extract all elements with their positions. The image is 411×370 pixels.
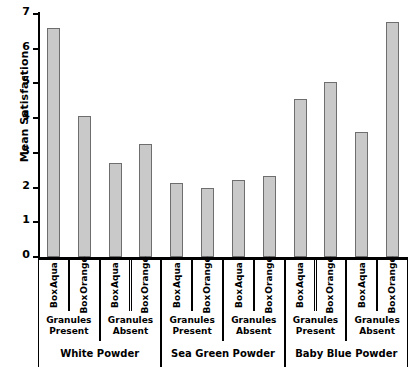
y-axis-tick: 4 — [33, 117, 38, 119]
box-label-word: Orange — [141, 257, 151, 294]
powder-label-cell: Sea Green Powder — [161, 341, 284, 367]
box-label-cell: OrangeBox — [131, 259, 162, 311]
box-label-cell: AquaBox — [38, 259, 69, 311]
box-label-word: Orange — [79, 257, 89, 294]
box-label-cell: OrangeBox — [254, 259, 285, 311]
granules-label-text: GranulesPresent — [293, 315, 338, 337]
box-label-text: AquaBox — [110, 262, 120, 308]
box-label-word: Aqua — [172, 262, 182, 288]
powder-label-text: Sea Green Powder — [171, 348, 275, 360]
y-axis-tick-label: 4 — [22, 110, 30, 122]
box-label-text: OrangeBox — [388, 257, 398, 314]
x-axis-label-table: AquaBoxOrangeBoxAquaBoxOrangeBoxAquaBoxO… — [38, 259, 408, 367]
granules-label-text: GranulesAbsent — [108, 315, 153, 337]
y-axis-tick: 6 — [33, 48, 38, 50]
granules-label-cell: GranulesAbsent — [223, 311, 285, 341]
bar — [47, 28, 60, 257]
bar — [232, 180, 245, 257]
bar-chart: Mean Satisfaction 01234567 AquaBoxOrange… — [0, 0, 411, 370]
granules-label-cell: GranulesAbsent — [346, 311, 408, 341]
box-label-word: Box — [295, 289, 305, 308]
box-label-text: OrangeBox — [203, 257, 213, 314]
y-axis-tick: 2 — [33, 187, 38, 189]
y-axis-tick-label: 6 — [22, 41, 30, 53]
box-label-cell: AquaBox — [161, 259, 192, 311]
box-label-word: Orange — [388, 257, 398, 294]
bar — [294, 99, 307, 257]
granules-label-cell: GranulesAbsent — [100, 311, 162, 341]
y-axis-tick-label: 5 — [22, 75, 30, 87]
box-label-word: Aqua — [48, 262, 58, 288]
y-axis-line — [38, 12, 40, 259]
box-label-text: AquaBox — [357, 262, 367, 308]
y-axis-tick: 5 — [33, 82, 38, 84]
bar — [78, 116, 91, 257]
y-axis-tick-label: 1 — [22, 214, 30, 226]
box-label-word: Box — [172, 289, 182, 308]
powder-label-cell: Baby Blue Powder — [285, 341, 408, 367]
granules-label-cell: GranulesPresent — [161, 311, 223, 341]
granules-label-cell: GranulesPresent — [38, 311, 100, 341]
box-label-word: Aqua — [233, 262, 243, 288]
box-label-text: AquaBox — [48, 262, 58, 308]
box-label-cell: OrangeBox — [69, 259, 100, 311]
powder-label-text: Baby Blue Powder — [295, 348, 397, 360]
box-label-word: Orange — [203, 257, 213, 294]
box-label-word: Box — [48, 289, 58, 308]
box-label-word: Aqua — [357, 262, 367, 288]
granules-label-text: GranulesAbsent — [231, 315, 276, 337]
box-label-word: Box — [110, 289, 120, 308]
box-label-word: Box — [233, 289, 243, 308]
granules-label-text: GranulesPresent — [46, 315, 91, 337]
granules-label-text: GranulesAbsent — [355, 315, 400, 337]
y-axis-tick-label: 7 — [22, 6, 30, 18]
box-label-cell: AquaBox — [285, 259, 316, 311]
box-label-text: OrangeBox — [264, 257, 274, 314]
box-label-word: Orange — [326, 257, 336, 294]
box-label-text: AquaBox — [233, 262, 243, 308]
box-label-text: OrangeBox — [79, 257, 89, 314]
box-label-cell: OrangeBox — [192, 259, 223, 311]
bar — [170, 183, 183, 257]
box-label-word: Aqua — [295, 262, 305, 288]
box-label-text: AquaBox — [172, 262, 182, 308]
box-label-text: OrangeBox — [141, 257, 151, 314]
box-label-cell: AquaBox — [100, 259, 131, 311]
box-label-text: OrangeBox — [326, 257, 336, 314]
box-label-word: Aqua — [110, 262, 120, 288]
bar — [201, 188, 214, 257]
box-label-cell: AquaBox — [346, 259, 377, 311]
y-axis-tick-label: 0 — [22, 249, 30, 261]
plot-area: 01234567 — [38, 12, 408, 259]
y-axis-tick: 7 — [33, 13, 38, 15]
bar — [324, 82, 337, 257]
box-label-cell: OrangeBox — [316, 259, 347, 311]
box-label-cell: AquaBox — [223, 259, 254, 311]
y-axis-tick-label: 2 — [22, 180, 30, 192]
bar — [263, 176, 276, 257]
y-axis-tick: 1 — [33, 221, 38, 223]
box-label-word: Orange — [264, 257, 274, 294]
granules-label-text: GranulesPresent — [170, 315, 215, 337]
powder-label-text: White Powder — [60, 348, 139, 360]
powder-label-cell: White Powder — [38, 341, 161, 367]
y-axis-tick: 0 — [33, 256, 38, 258]
box-label-text: AquaBox — [295, 262, 305, 308]
box-label-cell: OrangeBox — [377, 259, 408, 311]
y-axis-tick-label: 3 — [22, 145, 30, 157]
box-label-word: Box — [357, 289, 367, 308]
bar — [139, 144, 152, 257]
bar — [386, 22, 399, 257]
granules-label-cell: GranulesPresent — [285, 311, 347, 341]
bar — [109, 163, 122, 257]
y-axis-tick: 3 — [33, 152, 38, 154]
bar — [355, 132, 368, 257]
